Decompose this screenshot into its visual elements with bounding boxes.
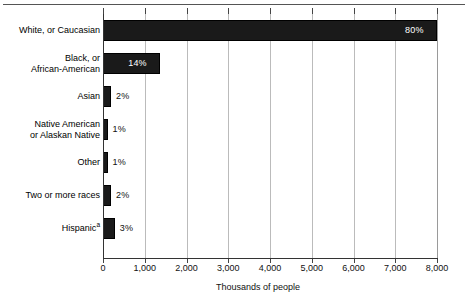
category-label: Two or more races bbox=[25, 190, 100, 201]
bar-value-label: 14% bbox=[128, 53, 147, 74]
bar-value-label: 80% bbox=[405, 20, 424, 41]
bar-row: 80% bbox=[103, 14, 437, 47]
bar bbox=[103, 185, 111, 206]
category-label-row: Native American or Alaskan Native bbox=[0, 113, 100, 146]
value-axis-tick-labels: 01,0002,0003,0004,0005,0006,0007,0008,00… bbox=[0, 263, 468, 277]
bar-row: 2% bbox=[103, 80, 437, 113]
bar-row: 1% bbox=[103, 146, 437, 179]
bar-value-label: 2% bbox=[116, 185, 129, 206]
value-axis-tick-label: 8,000 bbox=[426, 263, 449, 273]
bar-value-label: 1% bbox=[113, 152, 126, 173]
value-axis-line bbox=[103, 14, 104, 259]
footnote-marker: a bbox=[96, 221, 100, 228]
value-axis-tick-label: 1,000 bbox=[133, 263, 156, 273]
category-label-row: Asian bbox=[0, 80, 100, 113]
value-axis-tick-label: 0 bbox=[100, 263, 105, 273]
bar-value-label: 1% bbox=[113, 119, 126, 140]
category-label: Hispanica bbox=[62, 223, 100, 234]
bar-row: 2% bbox=[103, 179, 437, 212]
bar-row: 3% bbox=[103, 212, 437, 245]
bar bbox=[103, 20, 437, 41]
category-label: Native American or Alaskan Native bbox=[30, 119, 100, 141]
bar-chart-figure: White, or CaucasianBlack, or African-Ame… bbox=[0, 0, 468, 307]
category-label: Other bbox=[77, 157, 100, 168]
value-axis-tick-label: 7,000 bbox=[384, 263, 407, 273]
category-label-row: Black, or African-American bbox=[0, 47, 100, 80]
bar-row: 1% bbox=[103, 113, 437, 146]
bar bbox=[103, 86, 111, 107]
category-label: Asian bbox=[77, 91, 100, 102]
value-axis-title-text: Thousands of people bbox=[216, 282, 300, 292]
bar bbox=[103, 218, 115, 239]
bar-row: 14% bbox=[103, 47, 437, 80]
value-axis-tick-label: 4,000 bbox=[259, 263, 282, 273]
category-label: White, or Caucasian bbox=[19, 25, 100, 36]
category-axis-line bbox=[103, 258, 438, 259]
bar-value-label: 2% bbox=[116, 86, 129, 107]
category-label-row: Hispanica bbox=[0, 212, 100, 245]
bar-value-label: 3% bbox=[120, 218, 133, 239]
category-label-row: Other bbox=[0, 146, 100, 179]
gridline bbox=[437, 14, 438, 258]
value-axis-tick-label: 5,000 bbox=[300, 263, 323, 273]
category-axis-labels: White, or CaucasianBlack, or African-Ame… bbox=[0, 14, 100, 258]
value-axis-tick-label: 6,000 bbox=[342, 263, 365, 273]
category-label-row: White, or Caucasian bbox=[0, 14, 100, 47]
value-axis-tick-label: 3,000 bbox=[217, 263, 240, 273]
plot-area: 80%14%2%1%1%2%3% bbox=[103, 14, 437, 258]
category-label-row: Two or more races bbox=[0, 179, 100, 212]
axis-tick-top bbox=[437, 8, 438, 14]
top-divider-rule bbox=[3, 4, 465, 5]
category-label: Black, or African-American bbox=[31, 53, 100, 75]
value-axis-tick-label: 2,000 bbox=[175, 263, 198, 273]
value-axis-title: Thousands of people bbox=[0, 282, 468, 292]
